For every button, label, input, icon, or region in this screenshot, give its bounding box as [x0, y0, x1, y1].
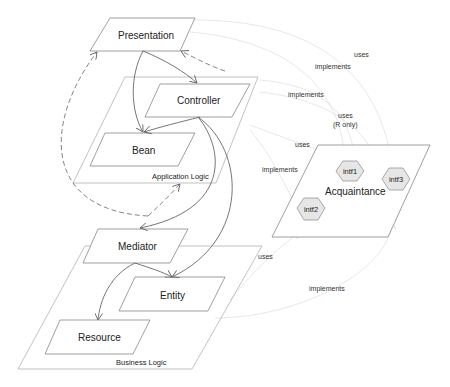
acquaintance-label: Acquaintance: [325, 186, 386, 197]
svg-text:Entity: Entity: [160, 290, 185, 301]
edge-label-bus-uses: uses: [258, 253, 273, 260]
svg-text:Bean: Bean: [132, 145, 155, 156]
edge-label-pres-implements: implements: [315, 63, 351, 71]
application-logic-label: Application Logic: [152, 172, 209, 181]
svg-text:Mediator: Mediator: [118, 241, 158, 252]
node-bean[interactable]: Bean: [90, 133, 195, 166]
svg-text:Presentation: Presentation: [118, 30, 174, 41]
edge-label-app-uses: uses: [295, 141, 310, 148]
edge-label-ctrl-implements: implements: [288, 91, 324, 99]
node-mediator[interactable]: Mediator: [83, 229, 188, 263]
svg-text:Resource: Resource: [78, 332, 121, 343]
node-controller[interactable]: Controller: [145, 84, 250, 117]
edge-label-pres-uses: uses: [354, 51, 369, 58]
edge-label-app-implements: implements: [262, 166, 298, 174]
edge-label-ctrl-uses: uses: [338, 112, 353, 119]
svg-text:intf2: intf2: [304, 205, 318, 214]
edge-label-ctrl-uses-r-only: (R only): [333, 121, 358, 129]
node-presentation[interactable]: Presentation: [90, 18, 195, 51]
svg-text:intf1: intf1: [343, 167, 357, 176]
architecture-diagram: Application Logic Business Logic Acquain…: [0, 0, 450, 387]
edge-label-bus-implements: implements: [309, 285, 345, 293]
svg-text:Controller: Controller: [177, 95, 221, 106]
node-entity[interactable]: Entity: [119, 277, 225, 311]
svg-text:intf3: intf3: [389, 175, 403, 184]
node-resource[interactable]: Resource: [45, 320, 150, 354]
business-logic-label: Business Logic: [116, 358, 167, 367]
